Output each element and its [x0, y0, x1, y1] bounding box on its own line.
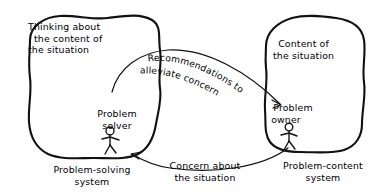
problem-solving-system-caption-line2: system — [28, 176, 156, 188]
concern-arrow-label-line2: the situation — [152, 172, 258, 184]
right-blob-heading-line1: Content of — [273, 38, 334, 50]
problem-content-system-caption-line1: Problem-content — [268, 160, 378, 172]
concern-arrow-label-line1: Concern about — [152, 160, 258, 172]
problem-content-system-caption-line2: system — [268, 172, 378, 184]
problem-owner-caption-line1: Problem — [262, 102, 324, 114]
problem-content-system-boundary — [265, 16, 365, 153]
left-blob-heading-line3: the situation — [28, 44, 102, 56]
problem-content-system-caption: Problem-content system — [268, 160, 378, 183]
right-blob-heading: Content of the situation — [273, 38, 334, 61]
concern-arrow-label: Concern about the situation — [152, 160, 258, 183]
left-blob-heading: Thinking about the content of the situat… — [28, 21, 102, 56]
left-blob-heading-line1: Thinking about — [28, 21, 102, 33]
diagram-canvas: Recommendations to alleviate concern — [0, 0, 379, 194]
problem-owner-caption: Problem owner — [262, 102, 324, 125]
problem-solver-caption-line1: Problem — [80, 108, 154, 120]
problem-solver-caption: Problem solver — [80, 108, 154, 131]
right-blob-heading-line2: the situation — [273, 50, 334, 62]
problem-owner-caption-line2: owner — [262, 114, 324, 126]
problem-solving-system-caption-line1: Problem-solving — [28, 164, 156, 176]
left-blob-heading-line2: the content of — [28, 33, 102, 45]
problem-solver-caption-line2: solver — [80, 120, 154, 132]
problem-solving-system-caption: Problem-solving system — [28, 164, 156, 187]
